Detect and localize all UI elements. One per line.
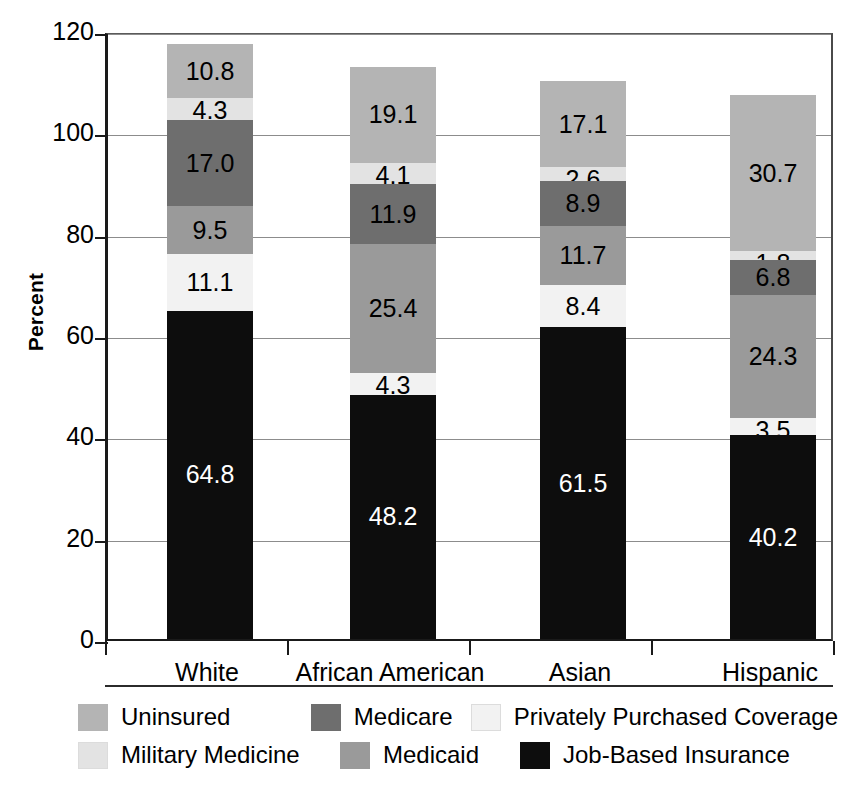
legend-swatch-medicaid (340, 742, 370, 769)
bar-segment-medicare: 11.9 (350, 184, 436, 244)
bar-segment-medicaid: 9.5 (167, 206, 253, 254)
y-tick-label: 60 (20, 321, 94, 350)
bar-value-label: 64.8 (186, 462, 235, 487)
bar-asian[interactable]: 17.12.68.911.78.461.5 (540, 81, 626, 639)
bar-value-label: 17.1 (559, 112, 608, 137)
x-tick-mark (469, 641, 471, 655)
legend-label: Job-Based Insurance (563, 741, 790, 769)
y-tick-label: 100 (20, 118, 94, 147)
y-tick-label: 80 (20, 220, 94, 249)
y-tick-mark (95, 135, 108, 137)
bar-segment-job-based-insurance: 48.2 (350, 395, 436, 639)
bar-segment-military-medicine: 1.8 (730, 251, 816, 260)
bar-value-label: 40.2 (749, 525, 798, 550)
bar-value-label: 8.4 (566, 294, 601, 319)
x-tick-label: Hispanic (630, 658, 847, 687)
bar-segment-uninsured: 10.8 (167, 44, 253, 99)
legend-item-medicaid[interactable]: Medicaid (340, 741, 520, 769)
bar-value-label: 10.8 (186, 59, 235, 84)
bar-segment-military-medicine: 2.6 (540, 167, 626, 180)
bar-segment-uninsured: 30.7 (730, 95, 816, 251)
legend-label: Military Medicine (121, 741, 300, 769)
legend-swatch-uninsured (78, 704, 108, 731)
plot-area: 10.84.317.09.511.164.819.14.111.925.44.3… (105, 33, 833, 641)
bar-segment-medicaid: 25.4 (350, 244, 436, 373)
legend-label: Uninsured (121, 703, 230, 731)
bar-segment-privately-purchased-coverage: 8.4 (540, 285, 626, 328)
legend-item-medicare[interactable]: Medicare (311, 703, 471, 731)
legend-item-uninsured[interactable]: Uninsured (78, 703, 311, 731)
bar-value-label: 19.1 (369, 102, 418, 127)
bar-value-label: 25.4 (369, 296, 418, 321)
bar-value-label: 48.2 (369, 504, 418, 529)
bar-value-label: 11.7 (560, 243, 607, 268)
bar-value-label: 9.5 (193, 218, 228, 243)
bar-value-label: 8.9 (566, 191, 601, 216)
bar-segment-uninsured: 19.1 (350, 67, 436, 164)
legend-item-privately-purchased-coverage[interactable]: Privately Purchased Coverage (471, 703, 838, 731)
legend-label: Privately Purchased Coverage (514, 703, 838, 731)
bar-white[interactable]: 10.84.317.09.511.164.8 (167, 44, 253, 639)
bar-value-label: 11.9 (370, 202, 417, 227)
y-tick-mark (95, 34, 108, 36)
legend-swatch-medicare (311, 704, 341, 731)
bar-segment-medicaid: 11.7 (540, 226, 626, 285)
bar-value-label: 30.7 (749, 161, 798, 186)
x-tick-mark (833, 641, 835, 655)
y-tick-label: 40 (20, 422, 94, 451)
y-tick-label: 0 (20, 625, 94, 654)
legend-label: Medicare (354, 703, 453, 731)
legend-label: Medicaid (383, 741, 479, 769)
bar-segment-privately-purchased-coverage: 3.5 (730, 418, 816, 436)
bar-hispanic[interactable]: 30.71.86.824.33.540.2 (730, 95, 816, 639)
bar-african-american[interactable]: 19.14.111.925.44.348.2 (350, 67, 436, 639)
bar-segment-privately-purchased-coverage: 4.3 (350, 373, 436, 395)
bar-value-label: 61.5 (559, 471, 608, 496)
legend-swatch-job-based-insurance (520, 742, 550, 769)
legend-item-job-based-insurance[interactable]: Job-Based Insurance (520, 741, 790, 769)
bar-value-label: 6.8 (756, 265, 791, 290)
y-tick-mark (95, 541, 108, 543)
bar-value-label: 24.3 (749, 344, 798, 369)
legend-swatch-military-medicine (78, 742, 108, 769)
bar-segment-privately-purchased-coverage: 11.1 (167, 254, 253, 310)
bar-segment-uninsured: 17.1 (540, 81, 626, 168)
x-tick-mark (651, 641, 653, 655)
bar-segment-job-based-insurance: 61.5 (540, 327, 626, 639)
x-tick-mark (287, 641, 289, 655)
legend-swatch-privately-purchased-coverage (471, 704, 501, 731)
stacked-bar-chart: Percent 020406080100120 10.84.317.09.511… (0, 0, 847, 798)
gridline (108, 34, 831, 35)
bar-segment-medicaid: 24.3 (730, 295, 816, 418)
y-tick-label: 120 (20, 17, 94, 46)
bar-segment-medicare: 8.9 (540, 181, 626, 226)
x-tick-mark (105, 641, 107, 655)
bar-segment-military-medicine: 4.1 (350, 163, 436, 184)
legend-item-military-medicine[interactable]: Military Medicine (78, 741, 340, 769)
legend-row-1: Uninsured Medicare Privately Purchased C… (78, 703, 838, 741)
y-tick-mark (95, 237, 108, 239)
y-tick-mark (95, 439, 108, 441)
legend: Uninsured Medicare Privately Purchased C… (78, 703, 838, 779)
legend-row-2: Military Medicine Medicaid Job-Based Ins… (78, 741, 838, 779)
bar-value-label: 11.1 (187, 270, 234, 295)
bar-segment-military-medicine: 4.3 (167, 98, 253, 120)
bar-segment-medicare: 6.8 (730, 260, 816, 294)
y-tick-label: 20 (20, 524, 94, 553)
bar-segment-job-based-insurance: 64.8 (167, 311, 253, 639)
bar-segment-medicare: 17.0 (167, 120, 253, 206)
bar-segment-job-based-insurance: 40.2 (730, 435, 816, 639)
y-tick-mark (95, 338, 108, 340)
bar-value-label: 17.0 (186, 151, 235, 176)
y-axis-title: Percent (24, 252, 48, 372)
